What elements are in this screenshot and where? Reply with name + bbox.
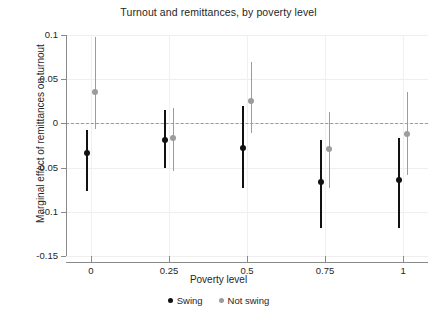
zero-reference-line <box>66 123 428 124</box>
x-axis-tick <box>169 256 170 262</box>
data-point-marker <box>170 135 176 141</box>
data-point-marker <box>396 177 402 183</box>
y-axis-tick <box>61 35 66 36</box>
data-point-marker <box>240 145 246 151</box>
legend-item-not-swing: Not swing <box>219 295 270 306</box>
legend-label-not-swing: Not swing <box>228 295 270 306</box>
gridline-vertical <box>169 35 170 256</box>
gridline-vertical <box>247 35 248 256</box>
x-axis-tick-label: 0.5 <box>225 265 269 276</box>
y-axis-tick <box>61 256 66 257</box>
x-axis-tick <box>403 256 404 262</box>
legend-item-swing: Swing <box>168 295 203 306</box>
confidence-interval-bar <box>95 37 97 129</box>
gridline-vertical <box>325 35 326 256</box>
y-tick-labels: 0.10.050-0.05-0.1-0.15 <box>14 0 58 320</box>
gridline-vertical <box>91 35 92 256</box>
x-axis-title: Poverty level <box>0 274 437 285</box>
y-axis-tick-label: 0 <box>18 117 58 128</box>
data-point-marker <box>84 150 90 156</box>
data-point-marker <box>404 131 410 137</box>
x-axis-tick-label: 1 <box>381 265 425 276</box>
x-axis-tick-label: 0 <box>69 265 113 276</box>
y-axis-tick <box>61 79 66 80</box>
plot-area <box>66 35 428 256</box>
y-axis-line <box>66 35 67 256</box>
y-axis-tick-label: -0.1 <box>18 206 58 217</box>
y-axis-tick <box>61 212 66 213</box>
data-point-marker <box>248 98 254 104</box>
y-axis-tick <box>61 168 66 169</box>
x-axis-tick <box>247 256 248 262</box>
y-axis-tick-label: 0.1 <box>18 29 58 40</box>
y-axis-tick-label: 0.05 <box>18 73 58 84</box>
data-point-marker <box>162 137 168 143</box>
data-point-marker <box>318 179 324 185</box>
chart-legend: Swing Not swing <box>0 295 437 306</box>
chart-title: Turnout and remittances, by poverty leve… <box>0 6 437 18</box>
legend-marker-swing-icon <box>168 298 173 303</box>
y-axis-tick-label: -0.15 <box>18 250 58 261</box>
confidence-interval-bar <box>86 130 88 190</box>
legend-label-swing: Swing <box>177 295 203 306</box>
data-point-marker <box>92 89 98 95</box>
y-axis-tick-label: -0.05 <box>18 162 58 173</box>
x-axis-tick <box>91 256 92 262</box>
x-axis-line <box>66 262 428 263</box>
x-axis-tick-label: 0.25 <box>147 265 191 276</box>
legend-marker-not-swing-icon <box>219 298 224 303</box>
chart-figure: Turnout and remittances, by poverty leve… <box>0 0 437 320</box>
x-axis-tick-label: 0.75 <box>303 265 347 276</box>
x-axis-tick <box>325 256 326 262</box>
y-axis-tick <box>61 123 66 124</box>
data-point-marker <box>326 146 332 152</box>
gridline-vertical <box>403 35 404 256</box>
